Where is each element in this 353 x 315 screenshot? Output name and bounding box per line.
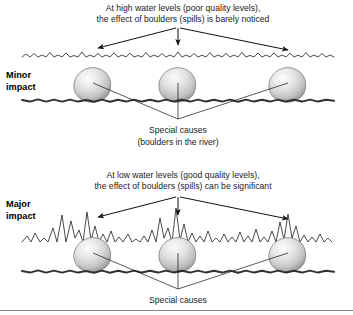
- arrow-right: [180, 28, 288, 50]
- minor-impact-label-line1: Minor: [6, 70, 31, 80]
- minor-callout-line1: Special causes: [149, 125, 207, 135]
- minor-impact-arrow-fan: [98, 28, 288, 50]
- minor-boulder-right: [269, 68, 306, 103]
- arrow-right-major: [180, 197, 288, 219]
- major-impact-label-line2: impact: [6, 211, 36, 221]
- major-callout-line1: Special causes: [149, 295, 207, 305]
- major-water-surface: [22, 208, 332, 242]
- minor-callout-line2: (boulders in the river): [137, 137, 218, 147]
- major-impact-label-line1: Major: [6, 199, 31, 209]
- diagram-canvas: At high water levels (poor quality level…: [0, 0, 353, 315]
- major-boulder-left: [74, 238, 111, 273]
- arrow-left: [98, 28, 176, 48]
- minor-boulder-left: [74, 68, 111, 103]
- river-boulders-diagram: At high water levels (poor quality level…: [0, 0, 353, 315]
- minor-impact-panel: Minor impact Specia: [6, 52, 334, 147]
- major-impact-panel: Major impact: [6, 199, 334, 305]
- major-boulder-center: [159, 238, 196, 273]
- top-caption-line1: At high water levels (poor quality level…: [106, 3, 261, 13]
- minor-boulder-center: [159, 68, 196, 103]
- major-impact-arrow-fan: [98, 197, 288, 219]
- major-boulder-right: [269, 238, 306, 273]
- minor-water-surface: [22, 52, 334, 57]
- bottom-caption-line1: At low water levels (good quality levels…: [106, 170, 259, 180]
- minor-impact-label-line2: impact: [6, 82, 36, 92]
- bottom-caption-line2: the effect of boulders (spills) can be s…: [94, 181, 272, 191]
- arrow-left-major: [98, 197, 176, 217]
- top-caption-line2: the effect of boulders (spills) is barel…: [97, 14, 270, 24]
